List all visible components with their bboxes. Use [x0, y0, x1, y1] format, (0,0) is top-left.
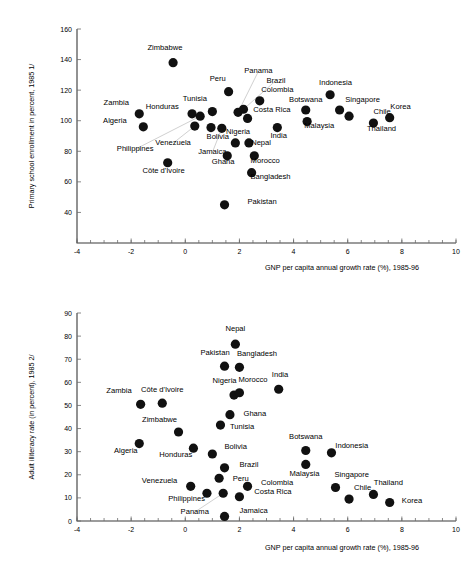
data-point-label: Peru	[210, 74, 226, 83]
data-point	[274, 385, 283, 394]
data-point	[224, 87, 233, 96]
data-point-label: Peru	[233, 474, 249, 483]
data-point-label: Ghana	[212, 157, 236, 166]
data-point	[225, 410, 234, 419]
data-point	[220, 463, 229, 472]
y-tick-label: 160	[60, 26, 72, 33]
data-point	[216, 420, 225, 429]
data-point-label: Nepal	[225, 324, 245, 333]
data-point-label: Zambia	[106, 386, 132, 395]
x-tick-label: -4	[74, 526, 80, 533]
y-tick-label: 120	[60, 87, 72, 94]
data-point	[385, 498, 394, 507]
y-tick-label: 70	[64, 356, 72, 363]
data-point-label: Thailand	[367, 124, 396, 133]
data-point	[135, 109, 144, 118]
data-point-label: Panama	[181, 507, 210, 516]
data-point-label: Bangladesh	[237, 349, 277, 358]
data-point-label: Indonesia	[319, 78, 353, 87]
y-tick-label: 100	[60, 117, 72, 124]
data-point	[219, 489, 228, 498]
data-point-label: Singapore	[334, 470, 369, 479]
data-point-label: Honduras	[159, 450, 192, 459]
data-point-label: Honduras	[146, 102, 179, 111]
x-tick-label: 0	[183, 526, 187, 533]
y-tick-label: 90	[64, 310, 72, 317]
data-point	[139, 122, 148, 131]
x-tick-label: 2	[237, 526, 241, 533]
data-point-label: Brazil	[239, 460, 258, 469]
y-tick-label: 60	[64, 178, 72, 185]
data-point-label: Bolivia	[225, 442, 248, 451]
data-point-label: Nigeria	[213, 376, 238, 385]
data-point-label: Tunisia	[183, 94, 208, 103]
y-tick-label: 10	[64, 494, 72, 501]
data-point	[169, 58, 178, 67]
x-tick-label: 10	[452, 526, 460, 533]
y-tick-label: 140	[60, 56, 72, 63]
data-point	[208, 449, 217, 458]
data-point-label: Bangladesh	[250, 172, 290, 181]
data-point-label: Nepal	[251, 138, 271, 147]
data-point-label: Colombia	[261, 478, 294, 487]
x-axis-title: GNP per capita annual growth rate (%), 1…	[265, 263, 419, 272]
data-point	[220, 362, 229, 371]
data-point-label: Korea	[402, 496, 423, 505]
x-tick-label: 8	[400, 248, 404, 255]
data-point	[158, 399, 167, 408]
adult-illiteracy-plot: 0102030405060708090-4-20246810NepalPakis…	[0, 292, 476, 584]
y-axis-title: Primary school enrollment in percent, 19…	[27, 64, 36, 209]
data-point-label: Morocco	[251, 156, 280, 165]
primary-enrollment-plot: 406080100120140160-4-20246810ZimbabweZam…	[0, 0, 476, 292]
data-point	[235, 363, 244, 372]
x-tick-label: -4	[74, 248, 80, 255]
chart-adult-illiteracy: 0102030405060708090-4-20246810NepalPakis…	[0, 292, 476, 584]
data-point	[231, 138, 240, 147]
data-point-label: Singapore	[345, 95, 380, 104]
y-axis-title: Adult illiteracy rate (in percent), 1985…	[27, 354, 36, 479]
y-tick-label: 80	[64, 148, 72, 155]
y-tick-label: 50	[64, 402, 72, 409]
data-point-label: Brazil	[266, 76, 285, 85]
data-point-label: Panama	[244, 66, 273, 75]
data-point	[301, 446, 310, 455]
data-point-label: Chile	[354, 483, 371, 492]
data-point	[187, 109, 196, 118]
x-tick-label: 0	[183, 248, 187, 255]
data-point	[331, 483, 340, 492]
data-point-label: Nigeria	[226, 127, 251, 136]
data-point	[186, 482, 195, 491]
data-point	[136, 400, 145, 409]
x-tick-label: 8	[400, 526, 404, 533]
x-tick-label: 2	[237, 248, 241, 255]
data-point-label: India	[270, 131, 287, 140]
data-point	[344, 494, 353, 503]
y-tick-label: 30	[64, 448, 72, 455]
data-point-label: Venezuela	[142, 476, 178, 485]
data-point	[385, 113, 394, 122]
data-point	[220, 200, 229, 209]
data-point-label: Botswana	[289, 432, 323, 441]
x-tick-label: -2	[128, 248, 134, 255]
data-point-label: Malaysia	[304, 121, 335, 130]
data-point	[235, 388, 244, 397]
data-point-label: Tunisia	[230, 422, 255, 431]
data-point	[239, 105, 248, 114]
data-point-label: Venezuela	[155, 138, 191, 147]
x-tick-label: 6	[346, 248, 350, 255]
data-point-label: Côte d'Ivoire	[142, 166, 184, 175]
x-tick-label: -2	[128, 526, 134, 533]
data-point	[174, 427, 183, 436]
chart-primary-enrollment: 406080100120140160-4-20246810ZimbabweZam…	[0, 0, 476, 292]
data-point-label: India	[272, 370, 289, 379]
data-point-label: Zimbabwe	[147, 43, 182, 52]
x-tick-label: 6	[346, 526, 350, 533]
y-tick-label: 40	[64, 209, 72, 216]
y-tick-label: 80	[64, 333, 72, 340]
data-point-label: Malaysia	[289, 469, 320, 478]
data-point	[215, 474, 224, 483]
data-point-label: Côte d'Ivoire	[141, 385, 183, 394]
x-axis-title: GNP per capita annual growth rate (%), 1…	[265, 543, 419, 552]
data-point-label: Algeria	[114, 446, 138, 455]
data-point	[301, 105, 310, 114]
